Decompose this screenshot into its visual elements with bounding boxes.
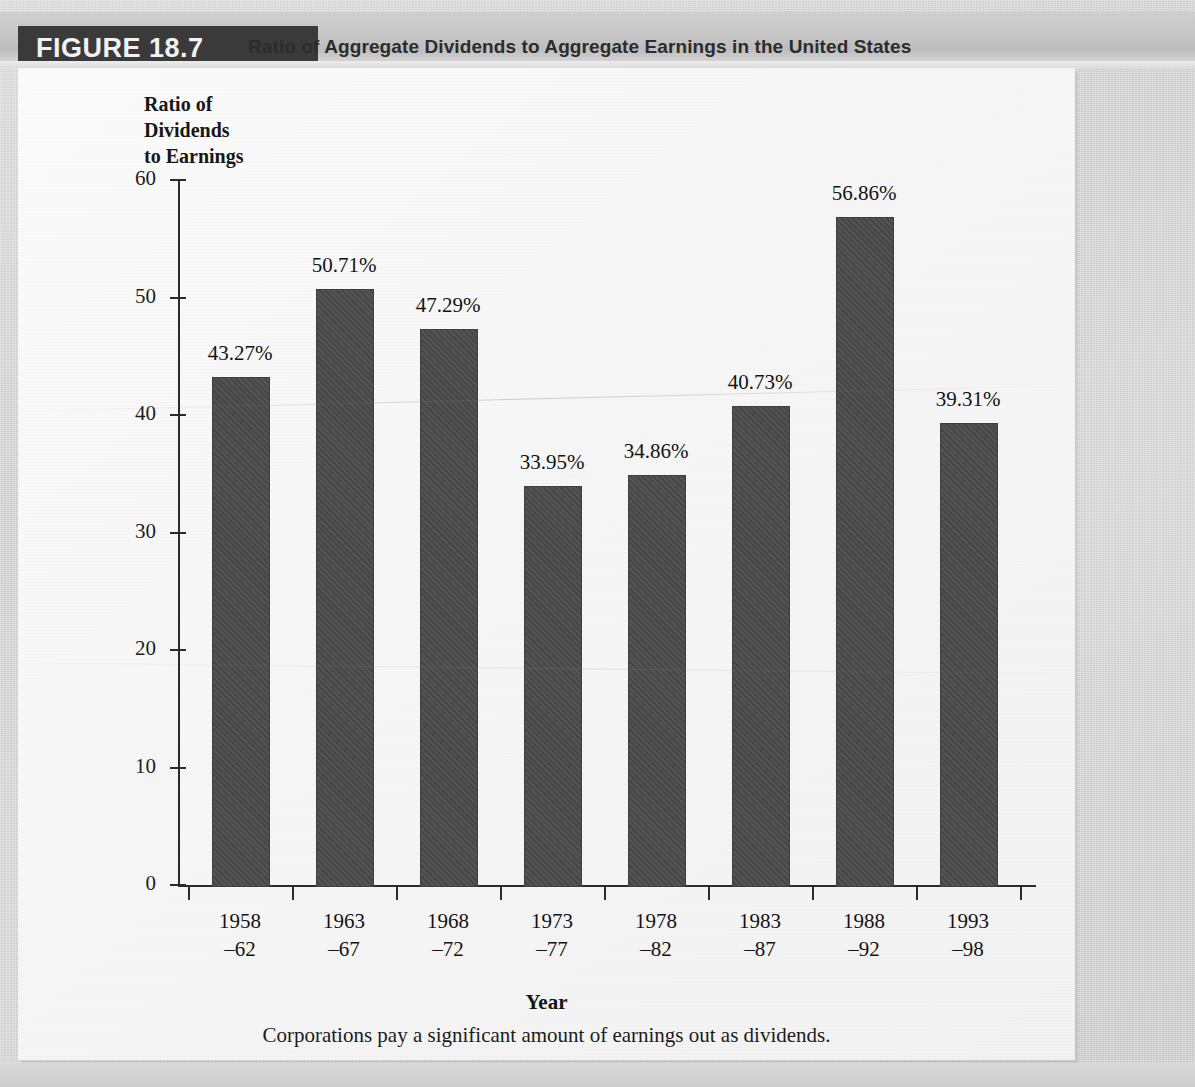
x-axis-category-label-top: 1963 [284, 907, 404, 935]
y-axis-tick-label: 50 [96, 284, 156, 309]
bar-value-label: 34.86% [596, 439, 716, 464]
bar [940, 423, 998, 887]
figure-caption: Corporations pay a significant amount of… [18, 1023, 1075, 1048]
y-axis-line [178, 180, 180, 887]
x-axis-category-label: 1983–87 [700, 907, 820, 963]
x-axis-tick [188, 887, 190, 900]
x-axis-category-label-bottom: –77 [492, 935, 612, 963]
x-axis-tick [916, 887, 918, 900]
bar-value-label: 56.86% [804, 181, 924, 206]
figure-header-band: FIGURE 18.7 Ratio of Aggregate Dividends… [0, 12, 1195, 62]
bar [212, 377, 270, 887]
x-axis-tick [1020, 887, 1022, 900]
x-axis-category-label-top: 1973 [492, 907, 612, 935]
figure-title: Ratio of Aggregate Dividends to Aggregat… [248, 36, 911, 58]
x-axis-tick [292, 887, 294, 900]
x-axis-category-label-bottom: –82 [596, 935, 716, 963]
x-axis-category-label: 1968–72 [388, 907, 508, 963]
x-axis-category-label-top: 1988 [804, 907, 924, 935]
x-axis-category-label: 1958–62 [180, 907, 300, 963]
y-axis-tick-label: 40 [96, 401, 156, 426]
bar-value-label: 39.31% [908, 387, 1028, 412]
x-axis-category-label-top: 1968 [388, 907, 508, 935]
x-axis-tick [812, 887, 814, 900]
x-axis-category-label-top: 1978 [596, 907, 716, 935]
x-axis-category-label-bottom: –87 [700, 935, 820, 963]
y-axis-tick [170, 532, 186, 534]
plot-area: 010203040506043.27%1958–6250.71%1963–674… [18, 68, 1075, 1060]
x-axis-category-label-bottom: –98 [908, 935, 1028, 963]
bar [628, 475, 686, 887]
bar-value-label: 40.73% [700, 370, 820, 395]
x-axis-category-label: 1988–92 [804, 907, 924, 963]
x-axis-tick [500, 887, 502, 900]
x-axis-tick [396, 887, 398, 900]
x-axis-category-label: 1978–82 [596, 907, 716, 963]
bar-value-label: 47.29% [388, 293, 508, 318]
x-axis-category-label-top: 1993 [908, 907, 1028, 935]
x-axis-category-label: 1973–77 [492, 907, 612, 963]
y-axis-tick [170, 884, 186, 886]
bar [420, 329, 478, 887]
x-axis-category-label-bottom: –67 [284, 935, 404, 963]
page-bottom-edge [0, 1063, 1195, 1087]
x-axis-tick [604, 887, 606, 900]
x-axis-line [178, 885, 1036, 887]
x-axis-category-label-top: 1983 [700, 907, 820, 935]
y-axis-tick [170, 297, 186, 299]
figure-number-label: FIGURE 18.7 [18, 33, 204, 64]
y-axis-tick [170, 649, 186, 651]
bar-value-label: 43.27% [180, 341, 300, 366]
x-axis-category-label-bottom: –62 [180, 935, 300, 963]
x-axis-category-label: 1993–98 [908, 907, 1028, 963]
y-axis-tick-label: 20 [96, 636, 156, 661]
y-axis-tick-label: 30 [96, 519, 156, 544]
y-axis-tick [170, 179, 186, 181]
bar-value-label: 50.71% [284, 253, 404, 278]
x-axis-category-label-bottom: –92 [804, 935, 924, 963]
bar [524, 486, 582, 887]
y-axis-tick-label: 60 [96, 166, 156, 191]
x-axis-category-label-top: 1958 [180, 907, 300, 935]
bar [836, 217, 894, 887]
y-axis-tick [170, 767, 186, 769]
x-axis-tick [708, 887, 710, 900]
x-axis-title: Year [18, 990, 1075, 1015]
y-axis-tick-label: 10 [96, 754, 156, 779]
bar [732, 406, 790, 887]
bar [316, 289, 374, 887]
x-axis-category-label-bottom: –72 [388, 935, 508, 963]
y-axis-tick [170, 414, 186, 416]
x-axis-category-label: 1963–67 [284, 907, 404, 963]
chart-panel: Ratio of Dividends to Earnings 010203040… [18, 68, 1075, 1060]
bar-value-label: 33.95% [492, 450, 612, 475]
y-axis-tick-label: 0 [96, 871, 156, 896]
